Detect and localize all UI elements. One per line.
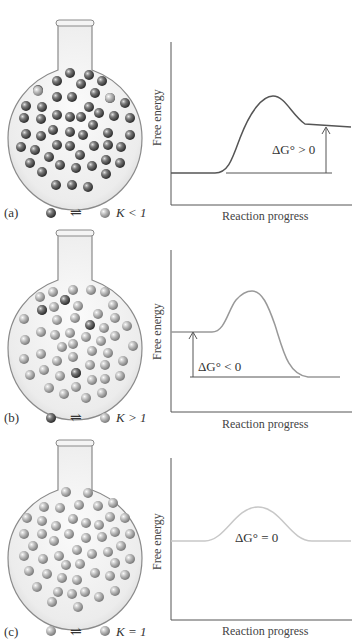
x-axis-label-a: Reaction progress	[222, 209, 308, 224]
diagram-canvas	[0, 0, 359, 641]
reactant-molecule-icon	[46, 208, 56, 218]
delta-g-label-a: ΔG° > 0	[272, 142, 315, 158]
x-axis-label-b: Reaction progress	[222, 417, 308, 432]
energy-curve-a	[171, 96, 351, 173]
flask-c	[8, 440, 142, 630]
product-molecule-icon	[100, 413, 110, 423]
energy-chart-b	[171, 250, 352, 412]
reactant-molecule-icon	[46, 626, 56, 636]
equilibrium-arrow-icon: ⇌	[70, 623, 82, 640]
y-axis-label-b: Free energy	[150, 303, 165, 360]
panel-label-b: (b)	[4, 410, 19, 426]
energy-curve-b	[171, 291, 340, 377]
y-axis-label-a: Free energy	[150, 89, 165, 146]
reactant-molecule-icon	[46, 413, 56, 423]
y-axis-label-c: Free energy	[150, 513, 165, 570]
delta-g-label-c: ΔG° = 0	[235, 530, 278, 546]
flask-b	[8, 230, 142, 420]
delta-g-label-b: ΔG° < 0	[198, 359, 241, 375]
equilibrium-arrow-icon: ⇌	[70, 204, 82, 221]
panel-label-a: (a)	[4, 205, 18, 221]
x-axis-label-c: Reaction progress	[222, 624, 308, 639]
panel-b	[8, 230, 352, 423]
product-molecule-icon	[100, 626, 110, 636]
product-molecule-icon	[100, 208, 110, 218]
panel-a	[8, 20, 352, 218]
k-relation-a: K < 1	[116, 205, 146, 221]
k-relation-b: K > 1	[116, 410, 146, 426]
energy-chart-a	[171, 42, 352, 205]
panel-c	[8, 440, 352, 636]
equilibrium-arrow-icon: ⇌	[70, 409, 82, 426]
flask-a	[8, 20, 142, 210]
panel-label-c: (c)	[4, 624, 18, 640]
k-relation-c: K = 1	[116, 624, 146, 640]
